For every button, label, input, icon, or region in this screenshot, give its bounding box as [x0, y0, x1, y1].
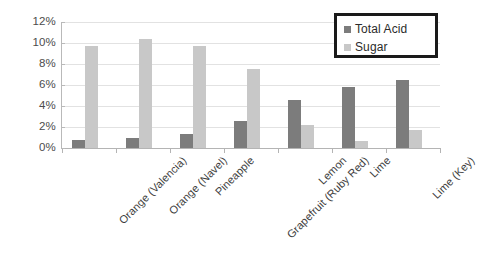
- bar-sugar: [409, 130, 422, 148]
- bar-sugar: [139, 39, 152, 148]
- y-axis-tick-mark: [61, 127, 65, 128]
- y-axis-tick-mark: [61, 106, 65, 107]
- y-axis-tick-mark: [61, 22, 65, 23]
- bar-total-acid: [126, 138, 139, 149]
- bar-total-acid: [234, 121, 247, 148]
- bar-total-acid: [342, 87, 355, 148]
- bar-total-acid: [396, 80, 409, 148]
- bar-group: [278, 22, 332, 148]
- x-axis-tick-mark: [170, 148, 171, 153]
- y-axis-tick-label: 4%: [4, 100, 56, 112]
- x-axis-category-label: Lime (Key): [430, 154, 477, 201]
- legend-label-sugar: Sugar: [355, 41, 388, 53]
- legend-item-total-acid: Total Acid: [344, 20, 435, 38]
- bar-group: [116, 22, 170, 148]
- bar-group: [62, 22, 116, 148]
- bar-total-acid: [72, 140, 85, 148]
- bar-group: [224, 22, 278, 148]
- legend-label-total-acid: Total Acid: [355, 23, 407, 35]
- bar-sugar: [301, 125, 314, 148]
- x-axis-tick-mark: [332, 148, 333, 153]
- y-axis-tick-mark: [61, 85, 65, 86]
- x-axis-tick-mark: [116, 148, 117, 153]
- x-axis-tick-mark: [386, 148, 387, 153]
- y-axis-tick-mark: [61, 148, 65, 149]
- y-axis-tick-label: 0%: [4, 142, 56, 154]
- bar-sugar: [355, 141, 368, 148]
- y-axis-tick-labels: 12%10%8%6%4%2%0%: [0, 22, 56, 148]
- bar-group: [170, 22, 224, 148]
- x-axis-tick-mark: [278, 148, 279, 153]
- y-axis-tick-label: 10%: [4, 37, 56, 49]
- x-axis-tick-mark: [224, 148, 225, 153]
- y-axis-tick-label: 6%: [4, 79, 56, 91]
- legend-swatch-icon-sugar: [344, 44, 351, 51]
- bar-total-acid: [180, 134, 193, 148]
- x-axis-category-label: Orange (Valencia): [116, 154, 188, 226]
- y-axis-tick-label: 12%: [4, 16, 56, 28]
- x-axis-line: [61, 148, 440, 149]
- legend-swatch-icon-total-acid: [344, 26, 351, 33]
- legend-item-sugar: Sugar: [344, 38, 435, 56]
- bar-total-acid: [288, 100, 301, 148]
- y-axis-tick-mark: [61, 43, 65, 44]
- bar-sugar: [247, 69, 260, 148]
- y-axis-tick-label: 2%: [4, 121, 56, 133]
- bar-sugar: [193, 46, 206, 148]
- y-axis-tick-label: 8%: [4, 58, 56, 70]
- y-axis-tick-mark: [61, 64, 65, 65]
- bar-sugar: [85, 46, 98, 148]
- x-axis-category-label: Lime: [367, 154, 393, 180]
- chart-legend: Total Acid Sugar: [334, 13, 438, 58]
- x-axis-tick-mark: [440, 148, 441, 153]
